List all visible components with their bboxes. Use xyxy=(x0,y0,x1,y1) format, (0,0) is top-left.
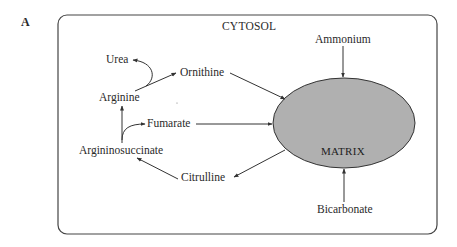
urea-label: Urea xyxy=(106,54,128,66)
fumarate-label: Fumarate xyxy=(147,118,190,130)
argininosuccinate-label: Argininosuccinate xyxy=(79,145,163,157)
ornithine-label: Ornithine xyxy=(180,67,224,79)
cytosol-label: CYTOSOL xyxy=(222,21,276,33)
arrow-argininosuccinate-to-fumarate xyxy=(122,124,145,140)
arrow-arginine-to-urea xyxy=(133,60,152,86)
arrow-ornithine-to-matrix xyxy=(230,73,285,99)
arrow-matrix-to-citrulline xyxy=(234,150,285,177)
matrix-label: MATRIX xyxy=(321,146,365,157)
artifact-dot xyxy=(176,102,177,103)
bicarbonate-label: Bicarbonate xyxy=(317,204,373,216)
urea-cycle-diagram: A CYTOSOL MATRIX Urea Ornithine Arginine… xyxy=(0,0,457,247)
panel-letter: A xyxy=(21,16,30,28)
citrulline-label: Citrulline xyxy=(181,172,225,184)
arrow-arginine-to-ornithine xyxy=(135,73,176,91)
ammonium-label: Ammonium xyxy=(315,34,371,46)
arginine-label: Arginine xyxy=(99,92,140,104)
diagram-graphics xyxy=(0,0,457,247)
arrow-citrulline-to-argininosuccinate xyxy=(137,158,178,179)
